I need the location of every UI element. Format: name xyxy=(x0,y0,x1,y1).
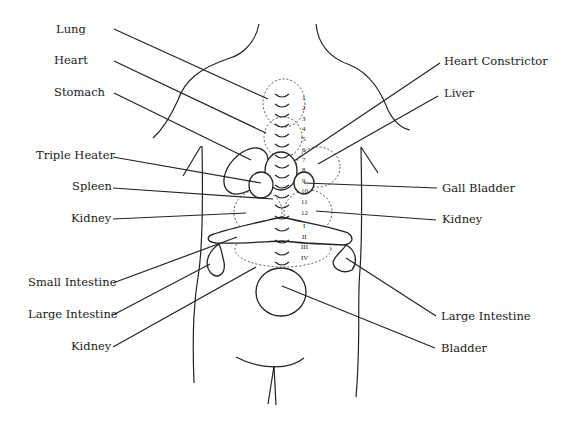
label-kidney-lower-left: Kidney xyxy=(71,339,111,353)
label-kidney-upper-left: Kidney xyxy=(71,211,111,225)
label-spleen: Spleen xyxy=(72,179,112,193)
label-kidney-right: Kidney xyxy=(442,212,482,226)
leader-kidney-right xyxy=(316,211,436,220)
svg-text:II: II xyxy=(302,233,307,241)
buttock-curve xyxy=(236,357,304,367)
large-intestine-left-organ xyxy=(207,244,224,276)
label-lung: Lung xyxy=(56,22,86,36)
label-large-intestine-right: Large Intestine xyxy=(441,309,531,323)
svg-text:1: 1 xyxy=(302,94,306,102)
organ-chart-diagram: 1 2 3 4 5 6 7 8 9 10 11 12 I II III IV xyxy=(0,0,568,430)
svg-text:5: 5 xyxy=(302,135,306,143)
leader-heart-constrictor xyxy=(294,63,440,161)
label-small-intestine: Small Intestine xyxy=(28,275,116,289)
svg-text:2: 2 xyxy=(302,104,306,112)
leader-liver xyxy=(318,96,438,164)
lung-zone xyxy=(263,79,305,127)
leader-heart xyxy=(114,61,266,133)
leader-gall-bladder xyxy=(304,183,437,188)
leg-line-left xyxy=(268,366,274,404)
svg-text:4: 4 xyxy=(302,125,306,133)
large-intestine-right-organ xyxy=(333,245,355,272)
label-heart: Heart xyxy=(54,53,88,67)
leader-stomach xyxy=(114,93,251,160)
svg-text:3: 3 xyxy=(302,115,306,123)
spleen-organ xyxy=(249,172,273,198)
svg-text:7: 7 xyxy=(302,156,306,164)
left-shoulder-outline xyxy=(153,24,259,138)
leader-lung xyxy=(114,29,268,99)
label-bladder: Bladder xyxy=(441,341,487,355)
label-liver: Liver xyxy=(444,86,474,100)
svg-text:11: 11 xyxy=(301,198,308,206)
svg-text:9: 9 xyxy=(302,177,306,185)
label-stomach: Stomach xyxy=(54,85,105,99)
label-gall-bladder: Gall Bladder xyxy=(442,181,515,195)
svg-text:III: III xyxy=(301,243,309,251)
right-armpit-line xyxy=(361,147,378,173)
label-heart-constrictor: Heart Constrictor xyxy=(444,54,548,68)
svg-text:10: 10 xyxy=(301,187,309,195)
left-torso-side xyxy=(193,146,202,383)
label-triple-heater: Triple Heater xyxy=(36,148,115,162)
leader-kidney-lower-left xyxy=(113,267,256,347)
bladder-organ xyxy=(256,268,306,316)
leg-line-right xyxy=(274,366,276,405)
leader-large-intestine-left xyxy=(113,264,210,315)
svg-text:IV: IV xyxy=(301,254,308,262)
label-large-intestine-left: Large Intestine xyxy=(28,307,118,321)
leader-kidney-upper-left xyxy=(113,213,246,219)
svg-text:12: 12 xyxy=(301,209,309,217)
svg-text:8: 8 xyxy=(302,166,306,174)
